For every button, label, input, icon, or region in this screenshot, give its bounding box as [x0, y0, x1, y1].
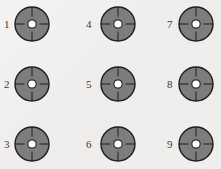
target-icon	[101, 7, 135, 41]
target-label-1: 1	[4, 19, 10, 30]
targets-layer	[0, 0, 221, 169]
target-icon	[101, 67, 135, 101]
target-label-5: 5	[86, 79, 92, 90]
target-icon	[15, 127, 49, 161]
target-label-3: 3	[4, 139, 10, 150]
target-label-9: 9	[167, 139, 173, 150]
target-label-6: 6	[86, 139, 92, 150]
target-icon	[101, 127, 135, 161]
target-label-4: 4	[86, 19, 92, 30]
target-icon	[179, 7, 213, 41]
target-label-7: 7	[167, 19, 173, 30]
target-icon	[179, 127, 213, 161]
target-icon	[15, 67, 49, 101]
target-label-8: 8	[167, 79, 173, 90]
target-icon	[179, 67, 213, 101]
target-icon	[15, 7, 49, 41]
target-label-2: 2	[4, 79, 10, 90]
diagram-canvas: 123456789	[0, 0, 221, 169]
